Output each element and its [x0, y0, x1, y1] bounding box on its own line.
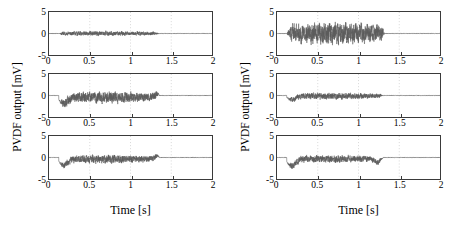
plot-area — [277, 136, 440, 179]
plot-area — [49, 74, 212, 117]
x-tick-label: 0 — [46, 119, 51, 129]
x-tick-mark — [360, 52, 361, 55]
x-tick-mark — [318, 52, 319, 55]
subplot-right-middle: 5 0 -5 — [276, 73, 441, 118]
x-tick-mark — [360, 176, 361, 179]
subplot-left-top: 5 0 -5 — [48, 11, 213, 56]
subplot-left-bottom: 5 0 -5 — [48, 135, 213, 180]
x-tick-label: 2 — [439, 57, 444, 67]
subplot-right-bottom: 5 0 -5 — [276, 135, 441, 180]
signal-trace — [49, 31, 212, 36]
plot-area — [277, 12, 440, 55]
y-tick-label-top: 5 — [41, 70, 46, 80]
x-tick-mark — [360, 114, 361, 117]
pvdf-output-figure: PVDF output [mV] 5 0 -5 00.511.52 5 0 -5 — [0, 0, 456, 230]
trace-right-middle — [277, 74, 440, 117]
x-tick-label: 1 — [356, 119, 361, 129]
y-tick-label-top: 5 — [269, 70, 274, 80]
plot-area — [277, 74, 440, 117]
x-tick-label: 0 — [46, 181, 51, 191]
x-tick-label: 2 — [439, 181, 444, 191]
x-tick-label: 1 — [356, 181, 361, 191]
y-tick-label-mid: 0 — [269, 154, 274, 164]
y-tick-label-top: 5 — [41, 132, 46, 142]
x-tick-labels-right-bottom: 00.511.52 — [276, 181, 441, 195]
x-tick-label: 0 — [274, 181, 279, 191]
x-tick-labels-left-middle: 00.511.52 — [48, 119, 213, 133]
panel-group-left: PVDF output [mV] 5 0 -5 00.511.52 5 0 -5 — [0, 0, 228, 230]
x-tick-mark — [132, 114, 133, 117]
x-tick-mark — [173, 52, 174, 55]
y-tick-label-top: 5 — [269, 8, 274, 18]
trace-right-top — [277, 12, 440, 55]
x-tick-label: 0.5 — [311, 57, 323, 67]
x-tick-mark — [401, 114, 402, 117]
x-tick-mark — [173, 114, 174, 117]
plot-area — [49, 12, 212, 55]
trace-right-bottom — [277, 136, 440, 179]
x-tick-label: 0 — [274, 57, 279, 67]
trace-left-bottom — [49, 136, 212, 179]
trace-left-top — [49, 12, 212, 55]
x-tick-label: 0 — [274, 119, 279, 129]
x-tick-label: 1 — [128, 119, 133, 129]
y-tick-label-top: 5 — [41, 8, 46, 18]
x-tick-mark — [401, 52, 402, 55]
x-tick-mark — [90, 52, 91, 55]
y-tick-label-mid: 0 — [41, 30, 46, 40]
y-tick-label-top: 5 — [269, 132, 274, 142]
x-tick-labels-left-top: 00.511.52 — [48, 57, 213, 71]
x-tick-labels-right-middle: 00.511.52 — [276, 119, 441, 133]
x-axis-label-left: Time [s] — [48, 203, 213, 218]
x-tick-labels-right-top: 00.511.52 — [276, 57, 441, 71]
x-tick-mark — [90, 176, 91, 179]
x-tick-mark — [401, 176, 402, 179]
x-tick-label: 1.5 — [166, 181, 178, 191]
x-tick-mark — [318, 114, 319, 117]
signal-trace — [277, 93, 440, 102]
y-tick-label-mid: 0 — [269, 30, 274, 40]
x-tick-label: 0.5 — [83, 119, 95, 129]
x-tick-label: 1.5 — [166, 119, 178, 129]
x-tick-mark — [318, 176, 319, 179]
y-axis-label-left: PVDF output [mV] — [11, 32, 23, 182]
x-tick-label: 0 — [46, 57, 51, 67]
x-tick-label: 0.5 — [83, 181, 95, 191]
plot-area — [49, 136, 212, 179]
x-tick-label: 0.5 — [83, 57, 95, 67]
x-tick-label: 0.5 — [311, 119, 323, 129]
signal-trace — [277, 22, 440, 45]
x-tick-label: 1.5 — [394, 119, 406, 129]
x-tick-labels-left-bottom: 00.511.52 — [48, 181, 213, 195]
x-tick-label: 2 — [211, 181, 216, 191]
x-tick-label: 0.5 — [311, 181, 323, 191]
y-axis-label-right: PVDF output [mV] — [239, 32, 251, 182]
x-axis-label-right: Time [s] — [276, 203, 441, 218]
y-tick-label-mid: 0 — [269, 92, 274, 102]
trace-left-middle — [49, 74, 212, 117]
x-tick-label: 1.5 — [166, 57, 178, 67]
x-tick-label: 1 — [128, 181, 133, 191]
subplot-left-middle: 5 0 -5 — [48, 73, 213, 118]
x-tick-label: 1.5 — [394, 181, 406, 191]
x-tick-mark — [90, 114, 91, 117]
x-tick-label: 1.5 — [394, 57, 406, 67]
x-tick-label: 2 — [439, 119, 444, 129]
x-tick-mark — [132, 176, 133, 179]
panel-group-right: PVDF output [mV] 5 0 -5 00.511.52 5 0 -5 — [228, 0, 456, 230]
x-tick-label: 2 — [211, 119, 216, 129]
x-tick-label: 1 — [356, 57, 361, 67]
x-tick-mark — [173, 176, 174, 179]
x-tick-label: 2 — [211, 57, 216, 67]
subplot-right-top: 5 0 -5 — [276, 11, 441, 56]
y-tick-label-mid: 0 — [41, 154, 46, 164]
x-tick-mark — [132, 52, 133, 55]
y-tick-label-mid: 0 — [41, 92, 46, 102]
x-tick-label: 1 — [128, 57, 133, 67]
